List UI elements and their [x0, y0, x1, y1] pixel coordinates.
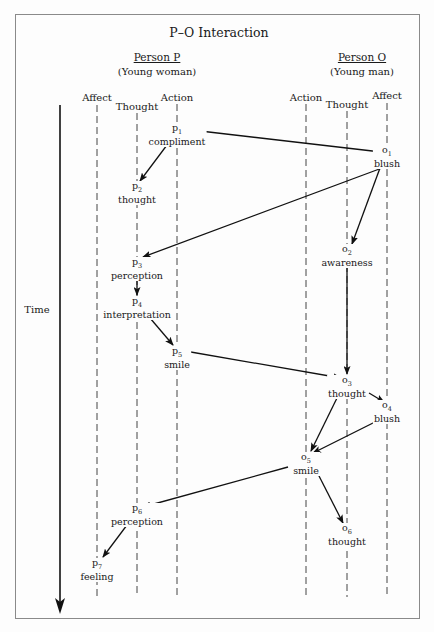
arrow-p1-to-p2: [140, 145, 167, 181]
node-p7: p7feeling: [79, 558, 114, 582]
node-symbol: p3: [111, 257, 163, 271]
node-symbol: p4: [103, 296, 171, 310]
node-symbol: p6: [111, 503, 163, 517]
node-o2: o2awareness: [320, 244, 373, 268]
node-label: perception: [111, 271, 163, 281]
node-symbol: p7: [80, 558, 113, 572]
node-p1: p1compliment: [148, 123, 207, 147]
node-label: blush: [374, 414, 400, 424]
node-symbol: o4: [374, 400, 400, 414]
node-label: awareness: [321, 258, 372, 268]
node-p3: p3perception: [110, 257, 164, 281]
node-label: blush: [374, 159, 400, 169]
node-o3: o3thought: [327, 375, 367, 399]
arrow-p1-to-o1: [183, 129, 381, 152]
node-symbol: p2: [118, 181, 156, 195]
diagram-lines: [0, 0, 434, 632]
node-p5: p5smile: [163, 346, 191, 370]
node-symbol: o3: [328, 375, 366, 389]
node-o5: o5smile: [292, 452, 320, 476]
node-label: compliment: [149, 137, 206, 147]
arrow-o4-to-o5: [313, 421, 377, 453]
arrow-o1-to-o2: [352, 168, 380, 244]
node-symbol: o5: [293, 452, 319, 466]
node-label: thought: [328, 389, 366, 399]
node-p6: p6perception: [110, 503, 164, 527]
node-label: thought: [118, 195, 156, 205]
node-o6: o6thought: [327, 523, 367, 547]
node-symbol: o1: [374, 145, 400, 159]
node-o1: o1blush: [373, 145, 401, 169]
node-symbol: p1: [149, 123, 206, 137]
arrow-p5-to-o3: [185, 351, 341, 378]
arrow-o5-to-p6: [143, 467, 288, 507]
arrow-p4-to-p5: [150, 318, 173, 345]
node-label: feeling: [80, 572, 113, 582]
node-symbol: o6: [328, 523, 366, 537]
node-label: interpretation: [103, 310, 171, 320]
arrow-o5-to-o6: [318, 474, 343, 523]
arrow-p6-to-p7: [103, 525, 127, 557]
node-p2: p2thought: [117, 181, 157, 205]
node-label: smile: [164, 360, 190, 370]
node-label: thought: [328, 537, 366, 547]
node-symbol: o2: [321, 244, 372, 258]
node-o4: o4blush: [373, 400, 401, 424]
node-label: smile: [293, 466, 319, 476]
node-p4: p4interpretation: [102, 296, 172, 320]
node-label: perception: [111, 517, 163, 527]
node-symbol: p5: [164, 346, 190, 360]
